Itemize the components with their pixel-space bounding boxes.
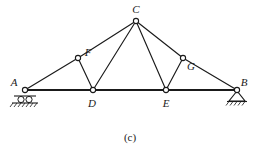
- node-label-G: G: [187, 60, 195, 72]
- roller-ground-hatching: [10, 103, 37, 107]
- truss-figure: A B C D E F G (c): [0, 0, 260, 150]
- node-label-A: A: [10, 76, 18, 88]
- node-label-F: F: [84, 46, 92, 58]
- support-pin-right: [226, 91, 247, 106]
- joint-B: [234, 87, 239, 92]
- node-label-D: D: [87, 97, 96, 109]
- member-A-F: [25, 58, 78, 90]
- joint-F: [75, 55, 80, 60]
- member-F-D: [78, 58, 93, 90]
- member-C-E: [136, 21, 166, 90]
- node-label-E: E: [162, 97, 170, 109]
- figure-caption: (c): [124, 131, 137, 144]
- joint-C: [133, 18, 138, 23]
- support-roller-left: [10, 96, 38, 107]
- node-label-B: B: [241, 76, 248, 88]
- node-labels: A B C D E F G: [10, 3, 248, 109]
- roller-wheel-1: [18, 96, 24, 102]
- roller-wheel-2: [26, 96, 32, 102]
- truss-diagram-svg: A B C D E F G (c): [0, 0, 260, 150]
- joint-D: [90, 87, 95, 92]
- joint-G: [180, 55, 185, 60]
- joint-A: [22, 87, 27, 92]
- pin-ground-hatching: [226, 102, 245, 106]
- joint-E: [163, 87, 168, 92]
- node-label-C: C: [132, 3, 140, 15]
- member-C-G: [136, 21, 183, 58]
- member-E-G: [166, 58, 183, 90]
- truss-members: [25, 21, 237, 90]
- member-D-C: [93, 21, 136, 90]
